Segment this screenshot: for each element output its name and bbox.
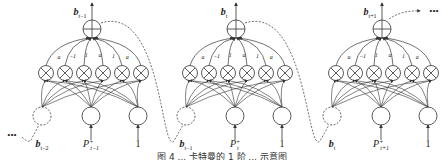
- input-node-b: [323, 107, 341, 125]
- input-node-one: [129, 107, 147, 125]
- outgoing-link: [389, 11, 420, 19]
- product-node: [134, 66, 149, 81]
- module-2: bta−11a1aP+t1bt−1: [177, 3, 293, 151]
- input-node-p: [372, 107, 390, 125]
- product-node: [183, 66, 198, 81]
- input-node-one: [419, 107, 437, 125]
- weight-label: −1: [359, 53, 366, 59]
- ellipsis-right: •••: [429, 6, 438, 16]
- product-node: [96, 66, 111, 81]
- input-b-label: bt−2: [35, 138, 48, 151]
- ellipsis-left: •••: [7, 130, 16, 140]
- weight-label: a: [242, 52, 245, 58]
- input-node-b: [177, 107, 195, 125]
- module-3: bt+1a−11a1aP+t+11bt: [323, 3, 439, 151]
- input-node-p: [226, 107, 244, 125]
- product-node: [278, 66, 293, 81]
- weight-label: a: [270, 54, 273, 60]
- output-label: bt+1: [363, 6, 376, 19]
- input-b-label: bt−1: [179, 138, 192, 151]
- weight-label: a: [416, 54, 419, 60]
- product-node: [386, 66, 401, 81]
- product-node: [329, 66, 344, 81]
- weight-label: −1: [69, 53, 76, 59]
- product-node: [348, 66, 363, 81]
- weight-label: a: [126, 54, 129, 60]
- input-node-one: [273, 107, 291, 125]
- product-node: [39, 66, 54, 81]
- product-node: [221, 66, 236, 81]
- input-b-label: bt: [329, 138, 336, 151]
- input-one-label: 1: [136, 138, 141, 149]
- input-one-label: 1: [426, 138, 431, 149]
- product-node: [367, 66, 382, 81]
- module-1: bt−1a−11a1aP+t−11bt−2: [33, 3, 149, 151]
- input-node-p: [82, 107, 100, 125]
- weight-label: 1: [85, 52, 88, 58]
- sum-node: [373, 20, 391, 38]
- sum-node: [227, 20, 245, 38]
- product-node: [405, 66, 420, 81]
- weight-label: a: [201, 54, 204, 60]
- product-node: [424, 66, 439, 81]
- figure-caption: 图 4 ... 卡特曼的 1 阶 ... 示意图: [0, 150, 444, 160]
- weight-label: 1: [402, 53, 405, 59]
- product-node: [58, 66, 73, 81]
- diagram-canvas: bt−1a−11a1aP+t−11bt−2bta−11a1aP+t1bt−1bt…: [0, 0, 444, 160]
- product-node: [202, 66, 217, 81]
- input-one-label: 1: [280, 138, 285, 149]
- weight-label: −1: [213, 53, 220, 59]
- weight-label: a: [98, 52, 101, 58]
- sum-node: [83, 20, 101, 38]
- weight-label: a: [347, 54, 350, 60]
- product-node: [259, 66, 274, 81]
- weight-label: a: [57, 54, 60, 60]
- product-node: [240, 66, 255, 81]
- weight-label: a: [388, 52, 391, 58]
- output-label: bt−1: [73, 6, 86, 19]
- output-label: bt: [221, 6, 228, 19]
- product-node: [115, 66, 130, 81]
- weight-label: 1: [256, 53, 259, 59]
- product-node: [77, 66, 92, 81]
- weight-label: 1: [112, 53, 115, 59]
- weight-label: 1: [375, 52, 378, 58]
- weight-label: 1: [229, 52, 232, 58]
- input-node-b: [33, 107, 51, 125]
